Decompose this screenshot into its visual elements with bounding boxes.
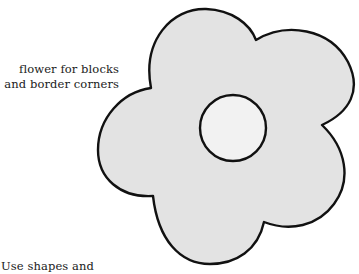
flower-center xyxy=(200,95,266,161)
